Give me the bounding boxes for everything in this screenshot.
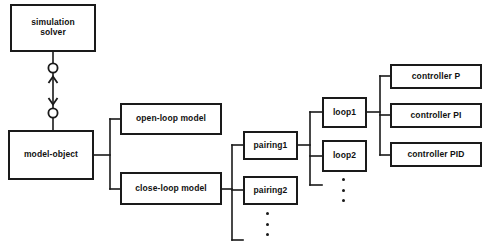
ellipsis-dot	[342, 199, 345, 202]
node-model-object[interactable]: model-object	[8, 130, 94, 180]
ellipsis-dot	[342, 189, 345, 192]
node-controller-p[interactable]: controller P	[390, 64, 482, 89]
node-pairing1[interactable]: pairing1	[243, 131, 298, 160]
ellipsis-dot	[266, 233, 269, 236]
node-simulation-solver[interactable]: simulation solver	[10, 4, 96, 52]
node-close-loop-model[interactable]: close-loop model	[120, 172, 222, 205]
node-pairing2[interactable]: pairing2	[243, 176, 298, 205]
node-loop1[interactable]: loop1	[322, 97, 367, 128]
diagram-canvas: model-object : vertical association line…	[0, 0, 486, 250]
association-circle-top	[48, 63, 57, 72]
node-controller-pi[interactable]: controller PI	[390, 103, 482, 128]
loop-ellipsis-icon	[341, 178, 345, 202]
ellipsis-dot	[266, 223, 269, 226]
ellipsis-dot	[342, 178, 345, 181]
node-open-loop-model[interactable]: open-loop model	[120, 103, 222, 135]
pairing-ellipsis-icon	[265, 212, 269, 236]
ellipsis-dot	[266, 212, 269, 215]
association-circle-bottom	[48, 108, 57, 117]
node-loop2[interactable]: loop2	[322, 140, 367, 172]
node-controller-pid[interactable]: controller PID	[390, 142, 482, 167]
